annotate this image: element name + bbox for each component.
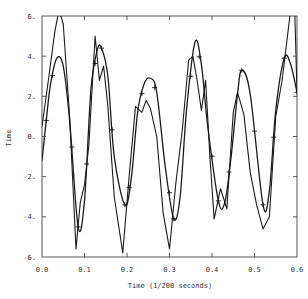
y-tick-label: -4. <box>23 213 36 221</box>
plus-marker <box>252 129 257 134</box>
plus-marker <box>261 202 266 207</box>
y-tick-label: -6. <box>23 254 36 262</box>
y-tick-label: 0. <box>28 133 36 141</box>
x-tick-label: 0.3 <box>163 266 176 274</box>
plus-marker <box>99 46 104 51</box>
y-tick-label: 6. <box>28 13 36 21</box>
y-axis-label: Time <box>5 130 13 147</box>
series-layer <box>42 10 300 253</box>
plus-marker <box>50 73 55 78</box>
plus-marker <box>167 190 172 195</box>
y-tick-label: 4. <box>28 53 36 61</box>
x-axis-label: Time (1/200 seconds) <box>128 282 212 290</box>
plus-marker <box>188 74 193 79</box>
plot-frame <box>42 16 297 257</box>
plus-marker <box>69 145 74 150</box>
x-tick-label: 0.5 <box>248 266 261 274</box>
x-tick-label: 0.6 <box>291 266 304 274</box>
series-line-1 <box>42 10 297 253</box>
x-tick-label: 0.1 <box>78 266 91 274</box>
plus-marker <box>110 127 115 132</box>
plus-marker <box>44 118 49 123</box>
x-tick-label: 0.4 <box>206 266 219 274</box>
plus-marker <box>271 135 276 140</box>
x-tick-label: 0.2 <box>121 266 134 274</box>
x-tick-label: 0.0 <box>36 266 49 274</box>
y-tick-label: 2. <box>28 93 36 101</box>
line-chart: 0.00.10.20.30.40.50.66.4.2.0.-2.-4.-6. T… <box>0 0 308 299</box>
y-tick-label: -2. <box>23 173 36 181</box>
